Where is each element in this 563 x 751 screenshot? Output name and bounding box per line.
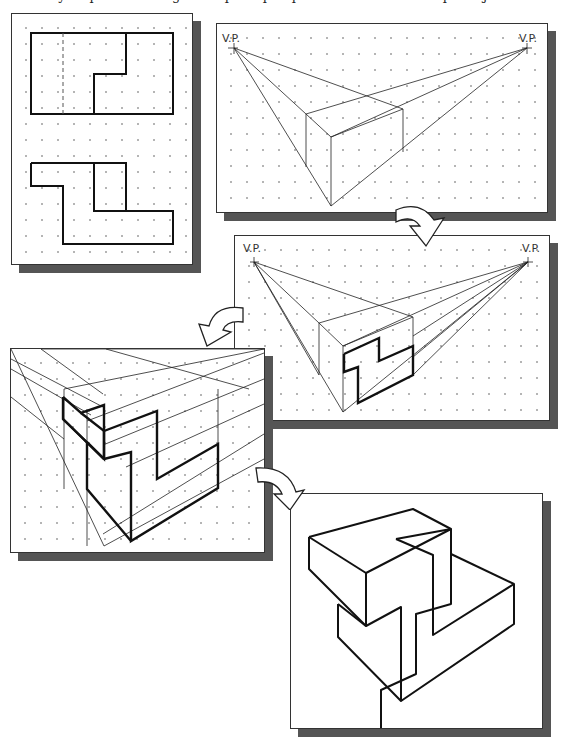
caption: necessary steps in creating a two-point …	[0, 0, 563, 3]
perspective-box-panel: V.P. V.P.	[216, 23, 548, 213]
vp-right-label: V.P.	[522, 242, 540, 255]
vp-right-label: V.P.	[519, 32, 537, 45]
perspective-front-profile-drawing: V.P. V.P.	[235, 236, 549, 420]
step-arrow-3	[252, 460, 312, 510]
vp-left-label: V.P.	[222, 32, 240, 45]
orthographic-views-panel	[11, 13, 193, 265]
vp-left-label: V.P.	[243, 242, 261, 255]
step-arrow-2	[185, 300, 250, 350]
step-arrow-1	[390, 200, 450, 250]
final-object-panel	[290, 493, 543, 729]
perspective-projection-panel	[10, 348, 265, 553]
orthographic-views-drawing	[12, 14, 192, 264]
perspective-front-profile-panel: V.P. V.P.	[234, 235, 550, 421]
perspective-projection-drawing	[11, 349, 264, 552]
final-object-drawing	[291, 494, 542, 728]
perspective-box-drawing: V.P. V.P.	[217, 24, 547, 212]
